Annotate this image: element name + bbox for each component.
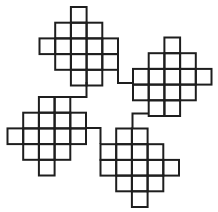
grid-cell: [132, 129, 148, 145]
bottom-left-grid: [8, 97, 87, 176]
grid-cell: [164, 85, 180, 101]
grid-cell: [39, 160, 55, 176]
grid-cell: [87, 23, 103, 39]
grid-cell: [23, 113, 39, 129]
grid-cell: [40, 38, 56, 54]
connector-top-left-to-bottom-left: [70, 82, 87, 97]
grid-cell: [133, 69, 149, 85]
grid-cell: [71, 38, 87, 54]
grid-cell: [148, 176, 164, 192]
grid-figure: [0, 0, 218, 212]
shapes-layer: [8, 7, 212, 207]
grid-cell: [23, 144, 39, 160]
grid-cell: [102, 54, 118, 70]
grid-cell: [70, 113, 86, 129]
grid-cell: [55, 128, 71, 144]
connector-bottom-left-to-bottom-right: [86, 128, 101, 144]
grid-cell: [70, 128, 86, 144]
grid-cell: [71, 23, 87, 39]
grid-cell: [39, 128, 55, 144]
bottom-right-grid: [101, 129, 180, 208]
connector-top-left-to-top-right: [118, 67, 133, 83]
grid-cell: [149, 100, 165, 116]
grid-cell: [101, 144, 117, 160]
grid-cell: [180, 69, 196, 85]
four-diamond-grids-diagram: [0, 0, 218, 212]
grid-cell: [164, 100, 180, 116]
grid-cell: [148, 144, 164, 160]
grid-cell: [87, 38, 103, 54]
grid-cell: [132, 191, 148, 207]
connector-top-right-to-bottom-right: [133, 114, 150, 129]
grid-cell: [116, 129, 132, 145]
grid-cell: [164, 38, 180, 54]
grid-cell: [149, 53, 165, 69]
grid-cell: [148, 160, 164, 176]
grid-cell: [164, 53, 180, 69]
grid-cell: [102, 38, 118, 54]
top-right-grid: [133, 38, 212, 117]
grid-cell: [55, 113, 71, 129]
grid-cell: [132, 144, 148, 160]
grid-cell: [196, 69, 212, 85]
grid-cell: [132, 176, 148, 192]
grid-cell: [101, 160, 117, 176]
grid-cell: [116, 144, 132, 160]
grid-cell: [55, 54, 71, 70]
grid-cell: [55, 38, 71, 54]
grid-cell: [116, 160, 132, 176]
grid-cell: [55, 144, 71, 160]
grid-cell: [55, 23, 71, 39]
grid-cell: [71, 7, 87, 23]
grid-cell: [71, 70, 87, 86]
grid-cell: [87, 70, 103, 86]
grid-cell: [87, 54, 103, 70]
grid-cell: [180, 85, 196, 101]
grid-cell: [132, 160, 148, 176]
grid-cell: [116, 176, 132, 192]
grid-cell: [163, 160, 179, 176]
grid-cell: [39, 97, 55, 113]
grid-cell: [180, 53, 196, 69]
connectors-layer: [70, 67, 149, 144]
grid-cell: [149, 85, 165, 101]
grid-cell: [164, 69, 180, 85]
grid-cell: [71, 54, 87, 70]
grid-cell: [23, 128, 39, 144]
grid-cell: [8, 128, 24, 144]
grid-cell: [149, 69, 165, 85]
grid-cell: [133, 85, 149, 101]
grid-cell: [39, 144, 55, 160]
grid-cell: [39, 113, 55, 129]
grid-cell: [55, 97, 71, 113]
top-left-grid: [40, 7, 119, 86]
